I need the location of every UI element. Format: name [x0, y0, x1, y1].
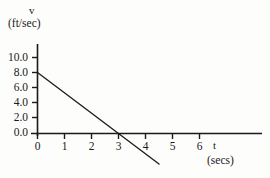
y-axis-units-label: (ft/sec) — [8, 17, 41, 29]
y-tick-label-4: 4.0 — [0, 96, 28, 108]
y-tick-label-6: 6.0 — [0, 81, 28, 93]
x-tick-label-4: 4 — [139, 140, 153, 152]
x-tick-label-1: 1 — [58, 140, 72, 152]
y-tick-label-0: 0.0 — [0, 126, 28, 138]
x-tick-label-3: 3 — [112, 140, 126, 152]
x-axis-label: t — [213, 139, 216, 151]
x-axis-units-label: (secs) — [207, 154, 234, 166]
x-tick-label-5: 5 — [166, 140, 180, 152]
y-tick-label-8: 8.0 — [0, 66, 28, 78]
x-tick-label-2: 2 — [85, 140, 99, 152]
y-tick-label-10: 10.0 — [0, 51, 28, 63]
x-tick-label-0: 0 — [31, 140, 45, 152]
y-tick-label-2: 2.0 — [0, 111, 28, 123]
velocity-time-chart: v (ft/sec) t (secs) 10.0 8.0 6.0 4.0 2.0… — [0, 0, 270, 178]
y-axis-label: v — [29, 4, 35, 16]
x-tick-label-6: 6 — [193, 140, 207, 152]
